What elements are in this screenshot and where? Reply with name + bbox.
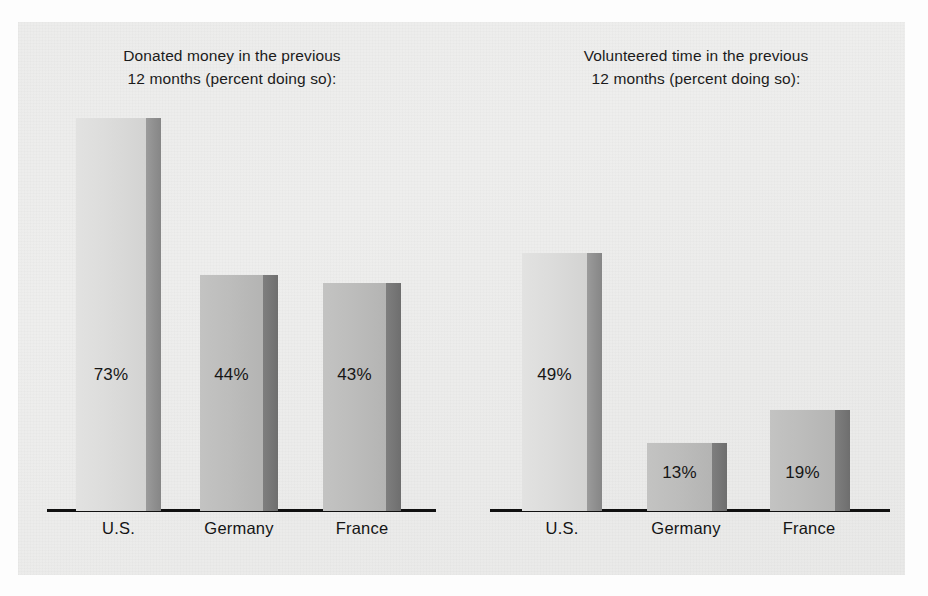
bar-value-label: 13% <box>647 463 712 483</box>
bar-side-shadow <box>712 443 727 511</box>
bar-face <box>770 410 835 511</box>
bar-value-label: 73% <box>76 365 146 385</box>
bar-side-shadow <box>386 283 401 511</box>
chart-figure: Donated money in the previous 12 months … <box>0 0 928 596</box>
bar-left-germany[interactable]: 44% <box>200 275 278 511</box>
category-label-germany: Germany <box>642 519 730 538</box>
panel-donated-money: Donated money in the previous 12 months … <box>0 0 464 596</box>
bar-right-germany[interactable]: 13% <box>647 443 727 511</box>
category-label-france: France <box>318 519 406 538</box>
bar-face <box>200 275 263 511</box>
bar-value-label: 43% <box>323 365 386 385</box>
bar-value-label: 44% <box>200 365 263 385</box>
bar-side-shadow <box>263 275 278 511</box>
bar-left-france[interactable]: 43% <box>323 283 401 511</box>
bar-value-label: 49% <box>522 365 587 385</box>
category-label-us: U.S. <box>519 519 605 538</box>
bar-side-shadow <box>146 118 161 511</box>
bar-right-us[interactable]: 49% <box>522 253 602 511</box>
bar-right-france[interactable]: 19% <box>770 410 850 511</box>
panel-volunteered-time: Volunteered time in the previous 12 mont… <box>464 0 928 596</box>
bar-face <box>323 283 386 511</box>
bar-side-shadow <box>587 253 602 511</box>
category-label-france: France <box>765 519 853 538</box>
bar-left-us[interactable]: 73% <box>76 118 161 511</box>
bar-side-shadow <box>835 410 850 511</box>
category-label-us: U.S. <box>76 519 161 538</box>
panel-left-title: Donated money in the previous 12 months … <box>0 44 464 90</box>
bar-value-label: 19% <box>770 463 835 483</box>
panel-right-title: Volunteered time in the previous 12 mont… <box>464 44 928 90</box>
bar-face <box>76 118 146 511</box>
category-label-germany: Germany <box>195 519 283 538</box>
